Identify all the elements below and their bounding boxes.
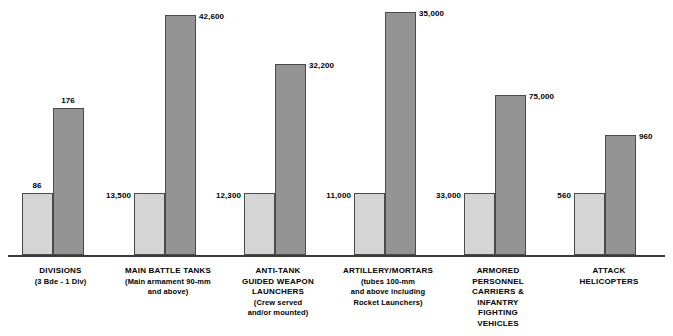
baseline — [553, 255, 665, 257]
bar-dark[interactable] — [495, 95, 526, 255]
baseline — [443, 255, 553, 257]
caption-sub-line: and above including — [333, 287, 443, 298]
plot-area: 560 960 — [553, 0, 665, 257]
bar-light[interactable] — [22, 193, 53, 255]
caption-title-line: DIVISIONS — [8, 266, 113, 277]
caption-sub-line: and above) — [113, 287, 223, 298]
caption-sub-line: (3 Bde - 1 Div) — [8, 277, 113, 288]
chart-group-attack-helicopters: 560 960 ATTACK HELICOPTERS — [553, 0, 665, 336]
plot-area: 12,300 32,200 — [223, 0, 333, 257]
bar-dark[interactable] — [385, 12, 416, 255]
bar-light[interactable] — [354, 193, 385, 255]
baseline — [333, 255, 443, 257]
caption-sub-line: (tubes 100-mm — [333, 277, 443, 288]
value-label-light: 86 — [32, 182, 41, 190]
caption-title-line: ARMORED — [443, 266, 553, 277]
chart-group-armored-personnel-carriers: 33,000 75,000 ARMORED PERSONNEL CARRIERS… — [443, 0, 553, 336]
value-label-dark: 75,000 — [529, 93, 554, 101]
value-label-dark: 32,200 — [309, 62, 334, 70]
value-label-light: 560 — [557, 192, 571, 200]
bar-light[interactable] — [574, 193, 605, 255]
chart-group-artillery-mortars: 11,000 35,000 ARTILLERY/MORTARS (tubes 1… — [333, 0, 443, 336]
category-caption: MAIN BATTLE TANKS (Main armament 90-mm a… — [113, 266, 223, 298]
caption-title-line: INFANTRY — [443, 298, 553, 309]
value-label-light: 13,500 — [106, 192, 131, 200]
category-caption: DIVISIONS (3 Bde - 1 Div) — [8, 266, 113, 287]
caption-sub-line: (Crew served — [223, 298, 333, 309]
category-caption: ARTILLERY/MORTARS (tubes 100-mm and abov… — [333, 266, 443, 308]
value-label-light: 11,000 — [326, 192, 351, 200]
caption-title-line: ARTILLERY/MORTARS — [333, 266, 443, 277]
plot-area: 13,500 42,600 — [113, 0, 223, 257]
caption-title-line: GUIDED WEAPON — [223, 277, 333, 288]
bar-light[interactable] — [244, 193, 275, 255]
caption-sub-line: and/or mounted) — [223, 308, 333, 319]
bar-light[interactable] — [134, 193, 165, 255]
caption-title-line: VEHICLES — [443, 319, 553, 330]
bar-dark[interactable] — [605, 135, 636, 255]
value-label-light: 12,300 — [216, 192, 241, 200]
value-label-dark: 35,000 — [419, 10, 444, 18]
plot-area: 11,000 35,000 — [333, 0, 443, 257]
category-caption: ARMORED PERSONNEL CARRIERS & INFANTRY FI… — [443, 266, 553, 329]
chart-group-anti-tank-guided-weapon-launchers: 12,300 32,200 ANTI-TANK GUIDED WEAPON LA… — [223, 0, 333, 336]
plot-area: 33,000 75,000 — [443, 0, 553, 257]
value-label-dark: 960 — [639, 133, 653, 141]
plot-area: 86 176 — [8, 0, 113, 257]
category-caption: ANTI-TANK GUIDED WEAPON LAUNCHERS (Crew … — [223, 266, 333, 319]
bar-dark[interactable] — [275, 64, 306, 255]
bar-light[interactable] — [464, 193, 495, 255]
caption-title-line: HELICOPTERS — [553, 277, 665, 288]
caption-title-line: MAIN BATTLE TANKS — [113, 266, 223, 277]
value-label-light: 33,000 — [436, 192, 461, 200]
bar-dark[interactable] — [53, 108, 84, 255]
baseline — [223, 255, 333, 257]
caption-sub-line: (Main armament 90-mm — [113, 277, 223, 288]
bar-dark[interactable] — [165, 15, 196, 255]
caption-title-line: CARRIERS & — [443, 287, 553, 298]
value-label-dark: 176 — [61, 97, 75, 105]
chart-group-divisions: 86 176 DIVISIONS (3 Bde - 1 Div) — [8, 0, 113, 336]
baseline — [113, 255, 223, 257]
caption-title-line: ANTI-TANK — [223, 266, 333, 277]
caption-sub-line: Rocket Launchers) — [333, 298, 443, 309]
category-caption: ATTACK HELICOPTERS — [553, 266, 665, 287]
caption-title-line: LAUNCHERS — [223, 287, 333, 298]
baseline — [8, 255, 113, 257]
caption-title-line: ATTACK — [553, 266, 665, 277]
caption-title-line: PERSONNEL — [443, 277, 553, 288]
chart-group-main-battle-tanks: 13,500 42,600 MAIN BATTLE TANKS (Main ar… — [113, 0, 223, 336]
value-label-dark: 42,600 — [199, 13, 224, 21]
caption-title-line: FIGHTING — [443, 308, 553, 319]
bar-chart: 86 176 DIVISIONS (3 Bde - 1 Div) 13,500 … — [0, 0, 673, 336]
